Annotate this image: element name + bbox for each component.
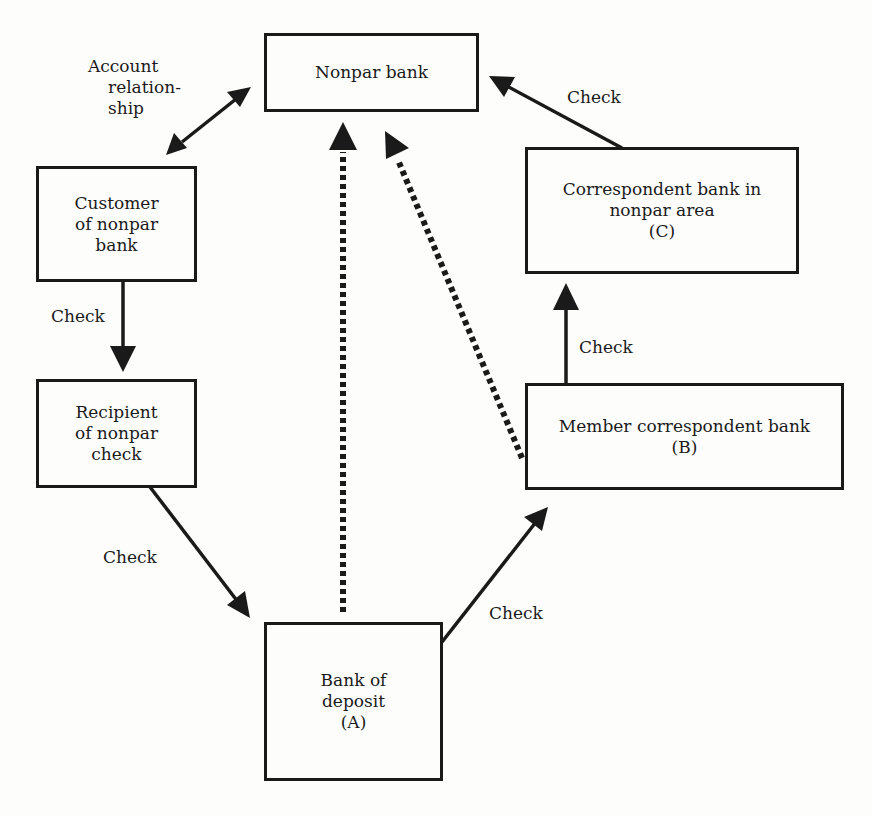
node-member-correspondent-bank-b: Member correspondent bank (B) <box>525 383 844 490</box>
node-label: nonpar area <box>609 200 714 221</box>
node-label: Correspondent bank in <box>563 179 762 200</box>
label-check-a-to-b: Check <box>489 603 543 624</box>
node-correspondent-bank-c: Correspondent bank in nonpar area (C) <box>525 147 799 274</box>
node-label: Member correspondent bank <box>559 416 810 437</box>
node-label: bank <box>95 235 137 256</box>
label-line: relation- <box>88 77 181 98</box>
node-label: Nonpar bank <box>315 62 428 83</box>
label-line: ship <box>88 98 181 119</box>
recipient-to-bank-a-arrow <box>150 487 250 618</box>
node-recipient-of-nonpar-check: Recipient of nonpar check <box>36 379 197 488</box>
node-bank-of-deposit-a: Bank of deposit (A) <box>264 622 443 781</box>
bank-a-to-nonpar-dotted-arrow <box>329 122 357 612</box>
node-label: Bank of <box>321 670 387 691</box>
node-customer-of-nonpar-bank: Customer of nonpar bank <box>36 166 197 282</box>
node-nonpar-bank: Nonpar bank <box>264 33 479 112</box>
node-label: (C) <box>649 221 675 242</box>
node-label: deposit <box>322 691 385 712</box>
label-check-customer-to-recipient: Check <box>51 306 105 327</box>
node-label: of nonpar <box>75 214 158 235</box>
node-label: check <box>91 444 141 465</box>
bank-b-to-nonpar-dotted-arrow <box>385 131 522 458</box>
node-label: (B) <box>672 437 698 458</box>
bank-b-to-bank-c-arrow <box>553 283 579 383</box>
label-line: Account <box>88 56 181 77</box>
node-label: of nonpar <box>75 423 158 444</box>
label-check-c-to-nonpar: Check <box>567 87 621 108</box>
label-check-recipient-to-a: Check <box>103 547 157 568</box>
node-label: (A) <box>341 712 367 733</box>
label-account-relationship: Account relation- ship <box>88 56 181 119</box>
node-label: Recipient <box>76 402 158 423</box>
node-label: Customer <box>74 193 158 214</box>
customer-to-recipient-arrow <box>110 281 136 372</box>
label-check-b-to-c: Check <box>579 337 633 358</box>
